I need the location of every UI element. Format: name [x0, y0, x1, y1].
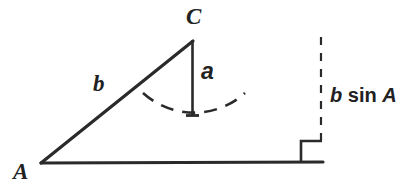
geometry-figure: A C b a b sin A [0, 0, 400, 190]
right-angle-marker [301, 141, 322, 162]
label-b-sin-a-fn-sin: sin [348, 84, 377, 106]
label-b-sin-a-var-a: A [382, 84, 396, 106]
label-vertex-c: C [186, 5, 201, 28]
base-line [41, 162, 323, 163]
label-b-sin-a: b sin A [330, 85, 397, 105]
label-side-b: b [93, 72, 105, 95]
label-b-sin-a-var-b: b [330, 84, 342, 106]
hypotenuse-line-b [41, 41, 193, 163]
dashed-arc [143, 93, 245, 113]
label-side-a: a [201, 60, 214, 83]
label-vertex-a: A [13, 160, 28, 183]
